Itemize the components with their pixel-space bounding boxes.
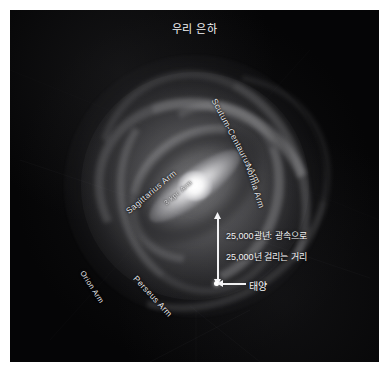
distance-text-line-2: 25,000년 걸리는 거리 [226,250,307,263]
distance-text-line-1: 25,000광년: 광속으로 [226,229,307,242]
figure-title: 우리 은하 [10,20,379,36]
sun-label: 태양 [249,278,267,293]
distance-measure-line [217,215,219,283]
milky-way-galaxy [10,10,379,362]
sun-leader-line [221,283,246,284]
galaxy-figure: Scutum-Centaurus Arm Norma Arm Sagittari… [10,10,379,362]
